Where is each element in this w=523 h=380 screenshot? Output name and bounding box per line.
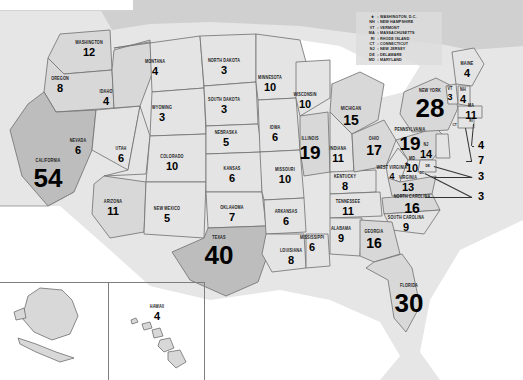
- electoral-map-screenshot: ★:WASHINGTON, D.C.NH:NEW HAMPSHIREVT:VER…: [0, 0, 523, 380]
- inset-shapes-svg: [0, 0, 523, 380]
